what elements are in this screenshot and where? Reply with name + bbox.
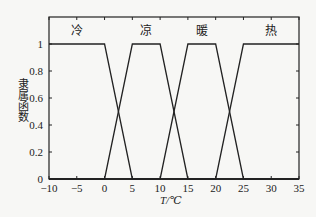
y-tick-label: 0.8	[29, 65, 43, 77]
x-tick-label: 15	[182, 182, 194, 194]
x-axis-label: T/℃	[160, 194, 181, 207]
y-tick-label: 0	[38, 173, 44, 185]
x-tick-label: 35	[294, 182, 306, 194]
x-tick-label: 20	[210, 182, 222, 194]
plot-frame	[49, 17, 299, 179]
membership-lines	[49, 44, 299, 179]
y-axis-label: 隶属函数	[14, 78, 28, 122]
y-axis-ticks: 00.20.40.60.81	[29, 38, 299, 185]
x-tick-label: 10	[155, 182, 167, 194]
y-tick-label: 0.6	[29, 92, 43, 104]
category-labels: 冷凉暖热	[71, 23, 277, 38]
x-tick-label: −5	[71, 182, 83, 194]
category-label: 热	[265, 24, 277, 38]
series-line	[49, 44, 299, 179]
x-tick-label: 0	[102, 182, 108, 194]
x-tick-label: 30	[266, 182, 278, 194]
membership-function-chart: −10−505101520253035 00.20.40.60.81 冷凉暖热	[0, 0, 316, 217]
x-tick-label: 25	[238, 182, 250, 194]
category-label: 冷	[71, 24, 83, 38]
y-tick-label: 1	[38, 38, 44, 50]
y-tick-label: 0.4	[29, 119, 43, 131]
x-tick-label: −10	[40, 182, 58, 194]
category-label: 暖	[196, 24, 208, 38]
x-tick-label: 5	[130, 182, 136, 194]
category-label: 凉	[140, 23, 152, 38]
y-tick-label: 0.2	[29, 146, 43, 158]
